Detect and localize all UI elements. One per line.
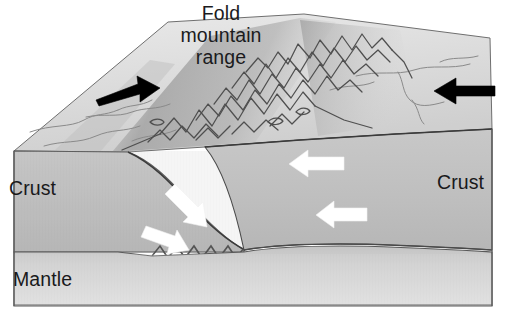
- mantle-texture: [14, 254, 492, 306]
- page-title: Foldmountainrange: [155, 2, 287, 69]
- crust-left-texture: [14, 151, 244, 252]
- title-line-2: mountain: [180, 24, 261, 46]
- title-line-1: Fold: [202, 2, 240, 24]
- label-mantle: Mantle: [13, 269, 72, 291]
- mantle-layer: [14, 246, 492, 306]
- label-crust-right: Crust: [437, 172, 484, 194]
- fold-mountain-block-diagram: Foldmountainrange Crust Crust Mantle: [0, 0, 507, 318]
- label-crust-left: Crust: [9, 178, 56, 200]
- crust-left-block: [14, 151, 245, 258]
- title-line-3: range: [196, 46, 246, 68]
